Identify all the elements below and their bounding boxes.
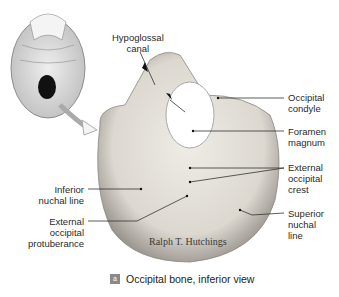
- figure-artwork: [0, 0, 339, 297]
- label-line: Foramen: [288, 126, 326, 137]
- label-line: nuchal line: [20, 195, 84, 206]
- figure-caption: a Occipital bone, inferior view: [110, 273, 254, 285]
- label-line: Hypoglossal: [112, 32, 164, 43]
- caption-text: Occipital bone, inferior view: [126, 273, 254, 285]
- label-occipital-condyle: Occipital condyle: [288, 92, 324, 114]
- label-external-occipital-protuberance: External occipital protuberance: [10, 216, 84, 249]
- label-superior-nuchal-line: Superior nuchal line: [288, 208, 324, 241]
- skull-inset-illustration: [11, 14, 85, 118]
- photographer-credit: Ralph T. Hutchings: [149, 236, 227, 247]
- label-external-occipital-crest: External occipital crest: [288, 162, 323, 195]
- label-line: occipital: [288, 173, 323, 184]
- label-line: occipital: [10, 227, 84, 238]
- label-foramen-magnum: Foramen magnum: [288, 126, 326, 148]
- label-line: line: [288, 230, 324, 241]
- label-line: Inferior: [20, 184, 84, 195]
- label-inferior-nuchal-line: Inferior nuchal line: [20, 184, 84, 206]
- label-line: nuchal: [288, 219, 324, 230]
- label-line: protuberance: [10, 238, 84, 249]
- label-line: magnum: [288, 137, 326, 148]
- label-hypoglossal-canal: Hypoglossal canal: [112, 32, 164, 54]
- label-line: crest: [288, 184, 323, 195]
- label-line: External: [288, 162, 323, 173]
- label-line: Occipital: [288, 92, 324, 103]
- label-line: canal: [112, 43, 164, 54]
- label-line: condyle: [288, 103, 324, 114]
- label-line: Superior: [288, 208, 324, 219]
- caption-badge: a: [110, 274, 120, 284]
- label-line: External: [10, 216, 84, 227]
